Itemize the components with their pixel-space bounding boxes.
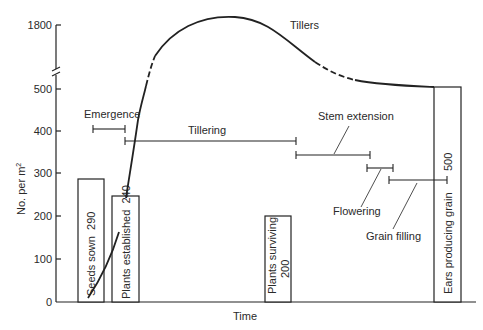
bar-label-plants-surviving: Plants surviving xyxy=(266,217,278,294)
bar-value-ears: 500 xyxy=(442,153,454,171)
y-tick-200: 200 xyxy=(34,210,52,222)
phase-label-grain-filling: Grain filling xyxy=(366,230,421,242)
phase-label-flowering: Flowering xyxy=(333,205,381,217)
bar-label-plants-established: Plants established 240 xyxy=(120,185,132,299)
y-axis xyxy=(52,25,61,302)
bar-value-plants-surviving: 200 xyxy=(279,260,291,278)
tillers-curve xyxy=(88,17,434,298)
y-tick-labels: 1800 500 400 300 200 100 0 xyxy=(28,19,52,308)
phase-label-tillering: Tillering xyxy=(188,124,226,136)
y-tick-100: 100 xyxy=(34,253,52,265)
y-tick-500: 500 xyxy=(34,83,52,95)
phase-label-emergence: Emergence xyxy=(84,108,140,120)
phase-bars xyxy=(93,125,447,229)
x-axis-label: Time xyxy=(233,310,257,322)
y-tick-0: 0 xyxy=(46,296,52,308)
curve-label-tillers: Tillers xyxy=(290,19,319,31)
y-tick-1800: 1800 xyxy=(28,19,52,31)
tillers-chart: 1800 500 400 300 200 100 0 No. per m2 Ti… xyxy=(0,0,483,330)
y-axis-label: No. per m2 xyxy=(15,163,27,215)
y-tick-300: 300 xyxy=(34,167,52,179)
y-tick-400: 400 xyxy=(34,125,52,137)
bar-label-seeds-sown: Seeds sown 290 xyxy=(85,212,97,296)
phase-label-stem-extension: Stem extension xyxy=(318,110,394,122)
bar-label-ears: Ears producing grain xyxy=(442,192,454,294)
